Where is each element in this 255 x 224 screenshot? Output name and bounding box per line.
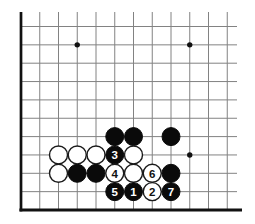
move-number: 1 [130,186,137,198]
move-number: 2 [149,186,155,198]
black-stone [162,164,180,182]
black-stone [106,128,124,146]
move-number: 5 [112,186,119,198]
move-number: 7 [168,186,174,198]
move-number: 3 [112,149,118,161]
go-board[interactable]: 3465127 [0,0,255,224]
white-stone [50,164,68,182]
go-diagram-page: 3465127 [0,0,255,224]
move-number: 6 [149,168,155,180]
black-stone [125,128,143,146]
white-stone [50,146,68,164]
white-stone [87,146,105,164]
white-stone [125,164,143,182]
white-stone [68,146,86,164]
black-stone [68,164,86,182]
star-point [75,42,80,47]
white-stone [125,146,143,164]
star-point [187,152,192,157]
black-stone [162,128,180,146]
move-number: 4 [112,168,119,180]
star-point [187,42,192,47]
black-stone [87,164,105,182]
